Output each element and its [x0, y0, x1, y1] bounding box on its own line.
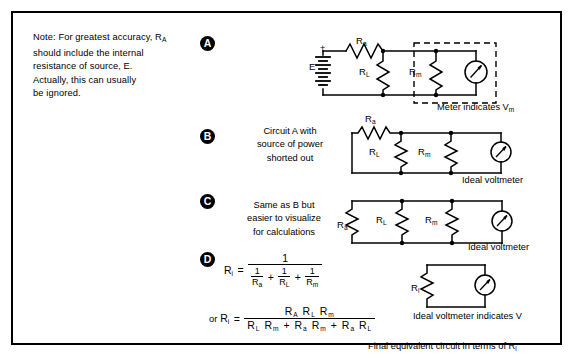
- caption-b-line-1: Circuit A with: [235, 125, 345, 138]
- caption-c-line-1: Same as B but: [224, 199, 344, 212]
- eq2-num-t3: Rm: [320, 305, 335, 317]
- note-line-3: resistance of source, E.: [33, 60, 208, 74]
- section-bullet-d: D: [200, 252, 215, 267]
- circuit-a-svg: [301, 31, 556, 109]
- note-line-1: Note: For greatest accuracy, R: [33, 32, 162, 42]
- circuit-d: [411, 257, 511, 313]
- section-bullet-b: B: [200, 129, 215, 144]
- eq2-den-t6: RL: [359, 319, 372, 331]
- eq1-op-1: +: [266, 271, 275, 283]
- eq2-num-t2: RL: [303, 305, 316, 317]
- note-line-4: Actually, this can usually: [33, 74, 208, 88]
- label-a-rl: RL: [359, 66, 370, 78]
- section-bullet-a: A: [200, 36, 215, 51]
- eq2-equals: =: [232, 313, 241, 325]
- caption-b-line-2: source of power: [235, 138, 345, 151]
- equation-ri-product: or Ri = RA RL Rm RL Rm + Ra Rm + Ra RL: [209, 305, 375, 332]
- eq2-numerator: RA RL Rm: [244, 305, 375, 318]
- label-d-ri: Ri: [411, 282, 419, 294]
- caption-c: Same as B but easier to visualize for ca…: [224, 199, 344, 239]
- equation-ri-reciprocal: Ri = 1 1 Ra + 1 RL + 1 Rm: [224, 252, 322, 288]
- caption-c-voltmeter: Ideal voltmeter: [468, 241, 529, 254]
- note-text: Note: For greatest accuracy, RA should i…: [33, 31, 208, 101]
- label-a-plus: +: [320, 43, 325, 53]
- label-a-rm: Rm: [409, 66, 421, 78]
- label-b-rm: Rm: [418, 146, 430, 158]
- note-line-5: be ignored.: [33, 87, 208, 101]
- label-a-source: E: [309, 61, 315, 72]
- eq2-lhs: Ri: [220, 312, 229, 325]
- label-b-rl: RL: [369, 146, 380, 158]
- label-a-ra: Ra: [356, 35, 367, 47]
- note-line-2: should include the internal: [33, 47, 208, 61]
- eq1-fraction: 1 1 Ra + 1 RL + 1 Rm: [248, 252, 322, 288]
- eq2-denominator: RL Rm + Ra Rm + Ra RL: [244, 318, 375, 332]
- note-line-1-sub: A: [162, 36, 167, 43]
- caption-c-line-3: for calculations: [224, 226, 344, 239]
- eq2-den-t4: Rm: [312, 319, 327, 331]
- circuit-a: [301, 31, 556, 109]
- eq2-den-op2: +: [331, 319, 338, 331]
- label-b-ra: Ra: [365, 113, 376, 125]
- eq1-numerator: 1: [248, 252, 322, 264]
- label-a-minus: –: [320, 79, 325, 89]
- caption-d-final: Final equivalent circuit in terms of Ri: [368, 340, 517, 355]
- eq2-den-t1: RL: [247, 319, 260, 331]
- eq2-prefix: or: [209, 314, 217, 324]
- eq1-denominator: 1 Ra + 1 RL + 1 Rm: [248, 264, 322, 288]
- eq2-den-op1: +: [283, 319, 290, 331]
- eq1-term-3: 1 Rm: [305, 266, 319, 288]
- label-c-rl: RL: [376, 214, 387, 226]
- caption-b-voltmeter: Ideal voltmeter: [462, 174, 523, 187]
- eq2-den-t3: Ra: [295, 319, 308, 331]
- eq2-num-t1: RA: [285, 305, 299, 317]
- eq2-den-t5: Ra: [342, 319, 355, 331]
- eq2-den-t2: Rm: [264, 319, 279, 331]
- section-bullet-c: C: [200, 194, 215, 209]
- eq1-term-2: 1 RL: [278, 266, 290, 288]
- caption-c-line-2: easier to visualize: [224, 212, 344, 225]
- eq1-term-1: 1 Ra: [251, 266, 263, 288]
- eq1-equals: =: [236, 264, 245, 276]
- label-c-rm: Rm: [425, 214, 437, 226]
- caption-b-line-3: shorted out: [235, 152, 345, 165]
- circuit-d-svg: [411, 257, 511, 313]
- label-c-ra: Ra: [337, 219, 348, 231]
- eq2-fraction: RA RL Rm RL Rm + Ra Rm + Ra RL: [244, 305, 375, 332]
- eq1-lhs: Ri: [224, 264, 233, 277]
- figure-frame: Note: For greatest accuracy, RA should i…: [11, 11, 562, 345]
- caption-d-voltmeter: Ideal voltmeter indicates V: [413, 310, 522, 323]
- caption-a-meter: Meter indicates Vm: [437, 101, 514, 116]
- eq1-op-2: +: [293, 271, 302, 283]
- caption-b: Circuit A with source of power shorted o…: [235, 125, 345, 165]
